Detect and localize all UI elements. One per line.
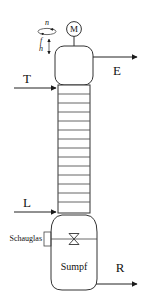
stream-L-label: L [23,195,31,210]
motor-label: M [70,24,78,34]
stream-T-label: T [23,71,31,86]
rotating-head-vessel [55,46,93,85]
sump-vessel: Sumpf [51,215,97,290]
column-shell [58,85,90,213]
motor-symbol: M [67,22,82,37]
stream-L-inlet: L [14,195,56,212]
parameter-label-n: n [45,18,49,27]
rotation-indicator-group: n [38,18,56,35]
sump-shell [51,215,97,290]
stream-R-label: R [116,260,125,275]
parameter-label-h: h [39,44,43,53]
stream-E-outlet: E [93,57,137,78]
process-flow-diagram: n f h M E [0,0,150,303]
stream-E-label: E [113,63,121,78]
stroke-indicator-group: f h [39,36,49,54]
sump-label: Sumpf [61,261,88,272]
sight-glass-label: Schauglas [10,234,42,243]
stream-T-inlet: T [14,71,56,88]
stream-R-outlet: R [96,260,137,284]
diagram-canvas: n f h M E [0,0,150,303]
sight-glass: Schauglas [10,232,51,246]
sight-glass-icon [44,232,51,246]
tray-column [58,85,90,213]
